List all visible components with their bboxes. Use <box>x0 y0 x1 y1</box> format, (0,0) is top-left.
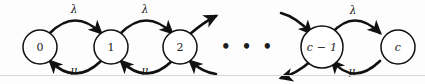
transition-arc-mu-next-to-2 <box>190 61 216 74</box>
markov-chain-diagram: 0 1 2 c − 1 c λ λ λ μ μ μ • • • <box>0 0 425 84</box>
transition-arc-lambda-2-to-next <box>190 16 216 34</box>
state-label-c: c <box>395 41 401 54</box>
transition-arc-lambda-c-minus-1-to-c <box>332 21 380 34</box>
transition-arc-mu-c-to-c-minus-1 <box>332 61 380 74</box>
diagram-canvas <box>0 0 425 84</box>
state-label-1: 1 <box>107 41 114 54</box>
transition-arc-lambda-prev-to-c-minus-1 <box>281 13 311 33</box>
rate-label-lambda-c-minus-1-c: λ <box>350 4 357 16</box>
transition-arc-lambda-0-to-1 <box>50 21 101 34</box>
page-rule <box>0 75 425 76</box>
transition-arc-lambda-1-to-2 <box>121 21 172 34</box>
state-label-c-minus-1: c − 1 <box>307 41 337 54</box>
rate-label-lambda-0-1: λ <box>71 3 78 15</box>
rate-label-lambda-1-2: λ <box>142 3 149 15</box>
state-label-0: 0 <box>36 41 43 54</box>
state-label-2: 2 <box>176 41 183 54</box>
ellipsis-marker: • • • <box>221 38 275 56</box>
